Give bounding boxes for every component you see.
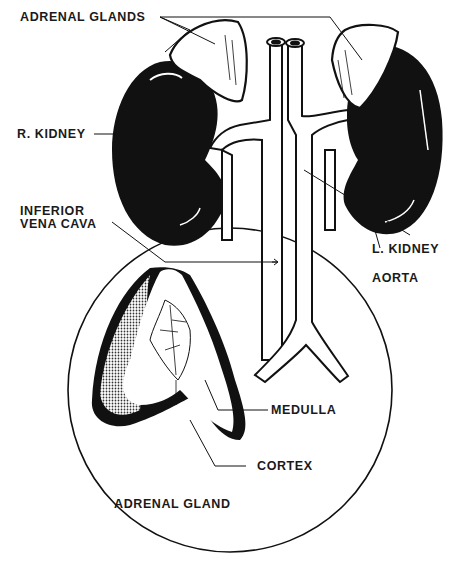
label-medulla: MEDULLA xyxy=(271,404,336,417)
label-r-kidney: R. KIDNEY xyxy=(17,128,86,141)
label-adrenal-glands: ADRENAL GLANDS xyxy=(20,11,146,24)
label-inset-title: ADRENAL GLAND xyxy=(114,498,231,511)
label-l-kidney: L. KIDNEY xyxy=(372,243,439,256)
anatomy-diagram: ADRENAL GLANDS R. KIDNEY INFERIOR VENA C… xyxy=(0,0,462,566)
label-cortex: CORTEX xyxy=(257,460,313,473)
label-inferior-vena-cava-line2: VENA CAVA xyxy=(20,218,97,231)
adrenal-cross-section xyxy=(92,267,246,440)
label-aorta: AORTA xyxy=(372,272,419,285)
